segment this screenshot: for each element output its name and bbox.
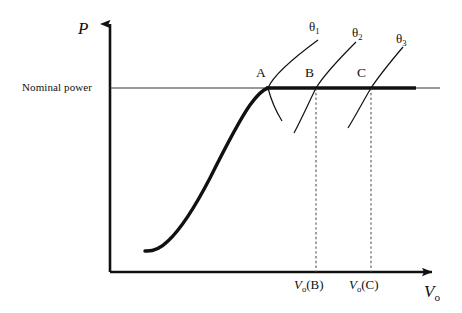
pitch-label-theta-1: θ1 bbox=[309, 20, 320, 35]
x-tick-c-base: V bbox=[349, 277, 357, 292]
pitch-line-theta-1 bbox=[268, 40, 318, 121]
nominal-power-label: Nominal power bbox=[22, 82, 92, 93]
point-label-a: A bbox=[256, 66, 266, 80]
y-axis-label: P bbox=[78, 20, 88, 37]
power-curve-figure: P Vo Nominal power A B C θ1 θ2 θ3 Vo(B) … bbox=[0, 0, 462, 313]
theta-3-subscript: 3 bbox=[402, 38, 406, 48]
point-label-c: C bbox=[357, 66, 366, 80]
x-axis-label-base: V bbox=[424, 282, 434, 301]
x-axis-label-subscript: o bbox=[434, 291, 440, 303]
figure-canvas bbox=[0, 0, 462, 313]
x-tick-label-vo-b: Vo(B) bbox=[294, 278, 324, 293]
point-label-b: B bbox=[305, 66, 314, 80]
theta-1-subscript: 1 bbox=[315, 26, 319, 36]
x-tick-label-vo-c: Vo(C) bbox=[349, 278, 379, 293]
x-axis-label: Vo bbox=[424, 283, 440, 303]
power-curve bbox=[145, 88, 268, 251]
pitch-label-theta-2: θ2 bbox=[352, 26, 363, 41]
theta-2-subscript: 2 bbox=[358, 32, 362, 42]
pitch-label-theta-3: θ3 bbox=[396, 32, 407, 47]
x-tick-b-suffix: (B) bbox=[306, 277, 323, 292]
x-tick-b-base: V bbox=[294, 277, 302, 292]
x-tick-c-suffix: (C) bbox=[361, 277, 378, 292]
